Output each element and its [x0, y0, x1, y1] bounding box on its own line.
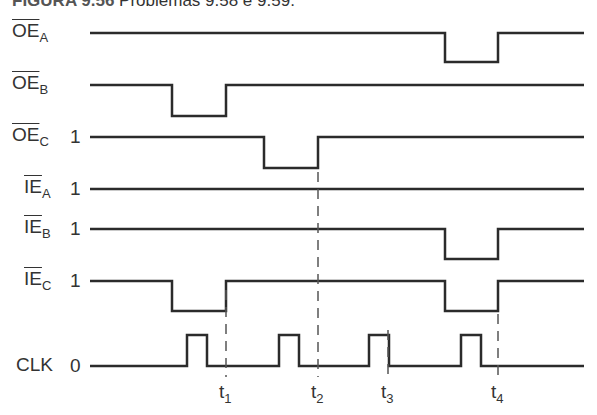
waveform-ieb: [90, 229, 584, 259]
waveform-clk: [90, 335, 584, 366]
waveform-oea: [90, 33, 584, 62]
waveform-oeb: [90, 85, 584, 116]
waveform-oec: [90, 137, 584, 168]
waveform-iec: [90, 281, 584, 311]
timing-diagram: [0, 0, 597, 415]
